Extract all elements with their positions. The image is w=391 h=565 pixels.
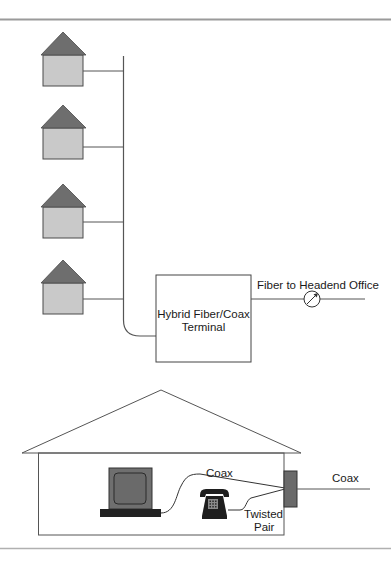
fiber-label: Fiber to Headend Office — [257, 279, 379, 292]
house-icon — [41, 260, 86, 314]
coax-trunk-line — [124, 56, 157, 336]
terminal-label-line2: Terminal — [156, 321, 251, 334]
twisted-pair-cable — [228, 489, 285, 510]
twisted-pair-label-line2: Pair — [254, 521, 274, 534]
coax-outside-label: Coax — [332, 472, 359, 485]
twisted-pair-label-line1: Twisted — [244, 508, 283, 521]
wall-jack-icon — [284, 471, 297, 507]
house-icon — [41, 32, 86, 86]
computer-icon — [100, 468, 161, 517]
home-body — [39, 453, 285, 535]
terminal-label-line1: Hybrid Fiber/Coax — [156, 308, 251, 321]
home-roof — [22, 390, 301, 453]
coax-inside-label: Coax — [206, 467, 233, 480]
optical-fiber-node-icon — [304, 291, 320, 307]
house-icon — [41, 105, 86, 159]
telephone-icon — [200, 489, 229, 519]
house-icon — [41, 184, 86, 238]
